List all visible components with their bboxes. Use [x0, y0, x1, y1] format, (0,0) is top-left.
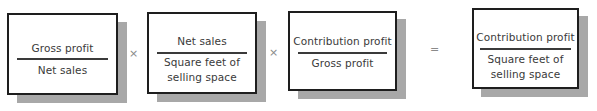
term-2-denominator-line2: selling space	[149, 70, 255, 85]
multiply-operator-2: ×	[269, 47, 278, 59]
result-denominator-line1: Square feet of	[474, 52, 577, 67]
term-3-box: Contribution profit Gross profit	[288, 11, 397, 91]
result-numerator: Contribution profit	[474, 30, 577, 45]
term-1-numerator: Gross profit	[9, 41, 116, 56]
term-2-fraction-bar	[157, 52, 247, 54]
term-2-box: Net sales Square feet of selling space	[147, 12, 257, 94]
result-fraction: Contribution profit Square feet of selli…	[474, 10, 577, 87]
term-1-fraction: Gross profit Net sales	[9, 15, 116, 93]
multiply-operator-1: ×	[129, 48, 138, 60]
result-denominator-line2: selling space	[474, 67, 577, 82]
term-3-denominator: Gross profit	[290, 56, 395, 71]
equals-operator: =	[430, 44, 439, 56]
term-1-box: Gross profit Net sales	[7, 13, 118, 95]
term-3-fraction-bar	[298, 52, 387, 54]
term-1-fraction-bar	[17, 58, 108, 60]
result-box: Contribution profit Square feet of selli…	[472, 8, 579, 89]
term-1-denominator: Net sales	[9, 63, 116, 78]
term-3-numerator: Contribution profit	[290, 34, 395, 49]
term-2-fraction: Net sales Square feet of selling space	[149, 14, 255, 92]
term-2-numerator: Net sales	[149, 34, 255, 49]
result-fraction-bar	[480, 48, 571, 50]
term-3-fraction: Contribution profit Gross profit	[290, 13, 395, 89]
term-2-denominator-line1: Square feet of	[149, 55, 255, 70]
